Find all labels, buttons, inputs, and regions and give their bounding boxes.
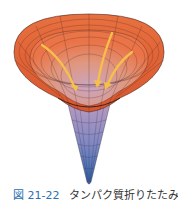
caption-text: タンパク質折りたたみ: [69, 189, 178, 202]
funnel-bowl: [14, 14, 164, 112]
figure-caption: 図 21-22 タンパク質折りたたみ: [13, 189, 178, 202]
figure-number: 図 21-22: [13, 189, 59, 202]
folding-funnel-figure: [0, 0, 178, 190]
funnel-cone: [68, 104, 110, 184]
